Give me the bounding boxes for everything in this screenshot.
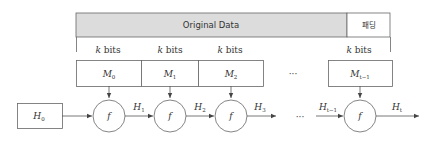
compression-function-3: f [215,100,247,132]
message-block-m1: M1 [142,61,199,87]
padding-cell: 패딩 [347,13,390,37]
original-data-bar: Original Data [76,13,347,37]
message-block-m0: M0 [77,61,142,87]
k-bits-label: k bits [95,45,121,55]
message-block-m2: M2 [199,61,264,87]
hash-h3-label: H3 [253,102,266,113]
hash-h2-label: H2 [193,102,205,113]
message-block-mt-1: Mt−1 [329,61,393,87]
original-data-label: Original Data [183,20,239,30]
hash-ht-label: Ht [391,102,403,113]
padding-label: 패딩 [362,20,376,30]
compression-function-1: f [93,100,125,132]
initial-hash-h0: H0 [18,104,63,129]
hash-h1-label: H1 [132,102,144,113]
k-bits-label: k bits [217,45,243,55]
compression-function-t: f [344,100,376,132]
compression-function-2: f [154,100,186,132]
hash-ht-1-label: Ht−1 [318,102,337,113]
hash-chain-diagram: Original Data 패딩 k bits k bits k bits k … [0,0,433,155]
k-bits-label: k bits [346,45,372,55]
k-bits-label: k bits [157,45,183,55]
ellipsis: ··· [289,69,298,79]
ellipsis: ··· [296,112,305,122]
